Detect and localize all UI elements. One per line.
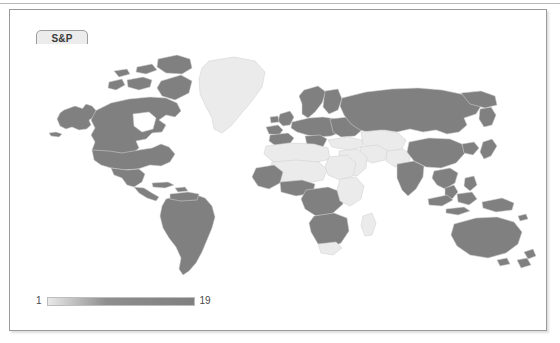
region-venezuela-guyana[interactable] <box>170 192 199 201</box>
world-choropleth-map[interactable] <box>16 44 540 292</box>
region-russia[interactable] <box>340 88 481 134</box>
region-ireland[interactable] <box>270 116 279 123</box>
legend-max-label: 19 <box>200 296 211 306</box>
legend-gradient-bar[interactable] <box>47 297 195 306</box>
world-map-svg[interactable] <box>16 44 540 292</box>
color-scale-legend: 1 19 <box>36 294 211 308</box>
map-panel: S&P <box>9 9 547 331</box>
legend-min-label: 1 <box>36 296 42 306</box>
top-divider <box>0 3 560 4</box>
